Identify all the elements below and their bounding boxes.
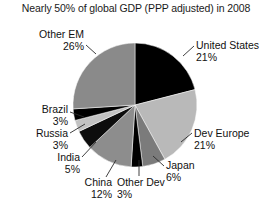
pie-label-other-em-name: Other EM	[22, 29, 84, 41]
pie-label-united-states-value: 21%	[196, 52, 268, 64]
pie-label-russia: Russia 3%	[10, 128, 68, 151]
pie-label-brazil-name: Brazil	[16, 104, 68, 116]
pie-label-brazil-value: 3%	[16, 116, 68, 128]
pie-label-dev-europe: Dev Europe 21%	[194, 128, 250, 151]
pie-label-japan-value: 6%	[166, 172, 212, 184]
leader-line-other-em	[86, 45, 96, 54]
pie-label-india-value: 5%	[30, 164, 80, 176]
pie-label-russia-value: 3%	[10, 140, 68, 152]
pie-label-other-em: Other EM 26%	[22, 29, 84, 52]
pie-label-other-dev-value: 3%	[117, 189, 179, 201]
pie-label-china-name: China	[62, 177, 112, 189]
pie-label-india: India 5%	[30, 152, 80, 175]
pie-label-dev-europe-value: 21%	[194, 140, 250, 152]
pie-label-china: China 12%	[62, 177, 112, 200]
pie-slice-group	[73, 43, 197, 167]
pie-label-other-em-value: 26%	[22, 41, 84, 53]
pie-slice-other-em	[73, 43, 135, 109]
pie-label-brazil: Brazil 3%	[16, 104, 68, 127]
pie-label-united-states-name: United States	[196, 40, 268, 52]
pie-label-russia-name: Russia	[10, 128, 68, 140]
pie-label-japan: Japan 6%	[166, 160, 212, 183]
pie-label-dev-europe-name: Dev Europe	[194, 128, 250, 140]
pie-chart-figure: Nearly 50% of global GDP (PPP adjusted) …	[0, 0, 272, 217]
pie-label-india-name: India	[30, 152, 80, 164]
pie-label-united-states: United States 21%	[196, 40, 268, 63]
pie-label-japan-name: Japan	[166, 160, 212, 172]
leader-line-united-states	[183, 46, 194, 56]
pie-label-china-value: 12%	[62, 189, 112, 201]
